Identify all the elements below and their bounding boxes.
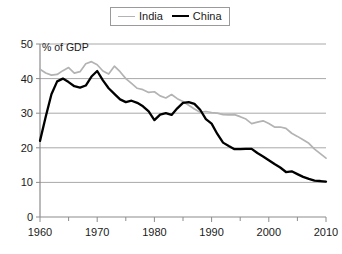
x-tick-label: 1970: [85, 226, 109, 238]
y-tick-label: 40: [21, 73, 33, 85]
x-tick-label: 2000: [257, 226, 281, 238]
series-line-china: [40, 71, 326, 182]
x-tick-label: 1960: [28, 226, 52, 238]
series-line-india: [40, 62, 326, 159]
y-tick-label: 10: [21, 176, 33, 188]
y-tick-label: 30: [21, 107, 33, 119]
axes-group: [40, 44, 326, 217]
gridlines-group: [40, 44, 326, 182]
line-chart: 01020304050 196019701980199020002010 % o…: [0, 0, 342, 254]
x-tick-label: 1990: [199, 226, 223, 238]
y-axis-ticks-group: 01020304050: [21, 38, 40, 223]
series-group: [40, 62, 326, 182]
x-tick-label: 1980: [142, 226, 166, 238]
x-axis-ticks-group: 196019701980199020002010: [28, 217, 338, 238]
percent-of-gdp-annotation: % of GDP: [42, 41, 89, 53]
x-tick-label: 2010: [314, 226, 338, 238]
y-tick-label: 0: [27, 211, 33, 223]
y-tick-label: 20: [21, 142, 33, 154]
y-tick-label: 50: [21, 38, 33, 50]
chart-page: India China 01020304050 1960197019801990…: [0, 0, 342, 254]
